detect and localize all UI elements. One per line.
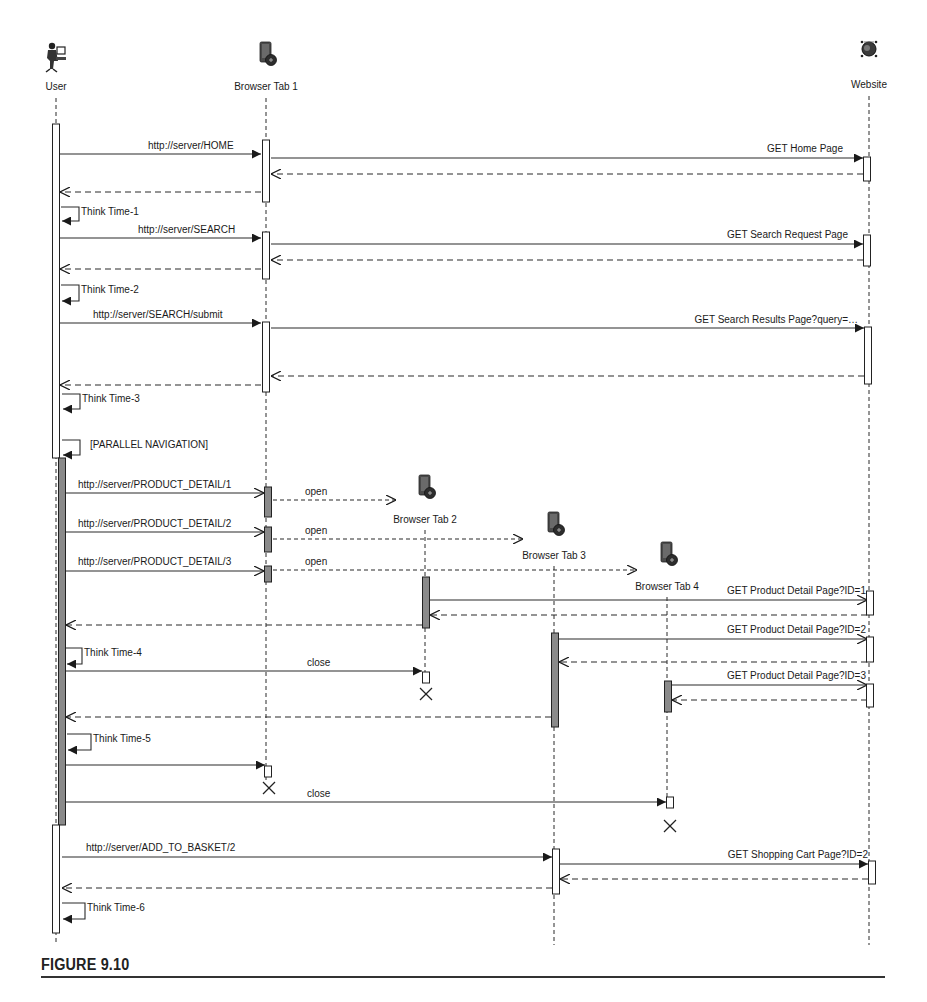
think-time-label: Think Time-4 xyxy=(84,647,142,658)
call-message: http://server/ADD_TO_BASKET/2 xyxy=(62,842,552,857)
activation-bar-website xyxy=(864,235,871,266)
activation-bar-tab1 xyxy=(265,527,272,552)
call-message: close xyxy=(66,657,422,671)
call-message: GET Product Detail Page?ID=2 xyxy=(559,624,867,639)
message-label: close xyxy=(307,788,331,799)
actor-label-tab1: Browser Tab 1 xyxy=(234,81,298,92)
activation-bar-website xyxy=(865,327,872,384)
activation-bar-tab3 xyxy=(552,633,559,727)
browser-tab-icon xyxy=(661,542,678,566)
destroy-x-icon xyxy=(263,782,275,794)
activation-bar-tab1 xyxy=(265,487,272,517)
actor-tab1: Browser Tab 1 xyxy=(234,42,298,92)
message-label: GET Home Page xyxy=(767,143,843,154)
actor-label-tab4: Browser Tab 4 xyxy=(635,581,699,592)
self-message: Think Time-2 xyxy=(61,284,139,301)
call-message: http://server/PRODUCT_DETAIL/3 xyxy=(66,556,264,571)
activation-bar-tab3 xyxy=(553,849,560,894)
activation-bar-website xyxy=(867,684,874,707)
message-label: http://server/PRODUCT_DETAIL/3 xyxy=(78,556,232,567)
user-at-computer-icon xyxy=(46,43,66,72)
think-time-label: Think Time-5 xyxy=(93,733,151,744)
self-message: [PARALLEL NAVIGATION] xyxy=(62,439,208,455)
destroy-x-icon xyxy=(664,820,676,832)
message-label: GET Shopping Cart Page?ID=2 xyxy=(728,849,869,860)
browser-tab-icon xyxy=(548,512,565,536)
call-message: GET Search Request Page xyxy=(271,229,863,244)
message-label: http://server/PRODUCT_DETAIL/1 xyxy=(78,479,232,490)
activation-bar-user xyxy=(53,825,60,933)
message-label: GET Search Request Page xyxy=(727,229,848,240)
activation-bar-tab1 xyxy=(263,232,270,279)
message-label: http://server/SEARCH/submit xyxy=(93,309,223,320)
message-label: GET Product Detail Page?ID=2 xyxy=(727,624,866,635)
call-message: close xyxy=(66,788,666,802)
message-label: open xyxy=(305,486,327,497)
activation-bar-tab1 xyxy=(263,140,270,202)
think-time-label: [PARALLEL NAVIGATION] xyxy=(90,439,208,450)
activation-bar-user xyxy=(59,458,66,825)
actor-tab4: Browser Tab 4 xyxy=(635,542,699,592)
create-message: open xyxy=(273,486,396,500)
actor-tab2: Browser Tab 2 xyxy=(393,475,457,525)
self-message: Think Time-3 xyxy=(62,393,140,409)
call-message: GET Shopping Cart Page?ID=2 xyxy=(560,849,868,864)
destroy-x-icon xyxy=(420,688,432,700)
activation-bar-tab2 xyxy=(423,672,430,683)
sequence-diagram: http://server/HOMEGET Home Pagehttp://se… xyxy=(0,0,927,1002)
message-label: open xyxy=(305,556,327,567)
think-time-label: Think Time-2 xyxy=(81,284,139,295)
activation-bar-tab1 xyxy=(265,566,272,582)
call-message: http://server/HOME xyxy=(60,140,261,154)
call-message: GET Product Detail Page?ID=3 xyxy=(672,670,867,685)
self-message: Think Time-4 xyxy=(66,647,142,664)
call-message: http://server/SEARCH/submit xyxy=(60,309,261,323)
call-message: http://server/PRODUCT_DETAIL/1 xyxy=(66,479,264,493)
actor-label-tab2: Browser Tab 2 xyxy=(393,514,457,525)
messages: http://server/HOMEGET Home Pagehttp://se… xyxy=(60,140,868,888)
message-label: http://server/HOME xyxy=(148,140,234,151)
call-message: http://server/PRODUCT_DETAIL/2 xyxy=(66,518,264,532)
message-label: http://server/ADD_TO_BASKET/2 xyxy=(86,842,236,853)
activation-bar-website xyxy=(864,157,871,181)
activation-bar-website xyxy=(867,591,874,615)
actor-website: Website xyxy=(851,41,887,90)
call-message: http://server/SEARCH xyxy=(60,224,261,238)
message-label: GET Search Results Page?query=… xyxy=(694,314,858,325)
actor-user: User xyxy=(45,43,67,92)
create-message: open xyxy=(273,525,523,539)
activation-bar-user xyxy=(53,124,60,458)
activation-bar-website xyxy=(867,637,874,662)
browser-tab-icon xyxy=(419,475,436,499)
message-label: close xyxy=(307,657,331,668)
message-label: open xyxy=(305,525,327,536)
think-time-label: Think Time-1 xyxy=(81,206,139,217)
activation-bar-website xyxy=(869,861,876,884)
self-message: Think Time-6 xyxy=(62,902,145,919)
activation-bar-tab4 xyxy=(665,681,672,712)
actor-tab3: Browser Tab 3 xyxy=(522,512,586,561)
activation-bar-tab1 xyxy=(265,766,272,777)
call-message: GET Search Results Page?query=… xyxy=(271,314,864,328)
think-time-label: Think Time-6 xyxy=(87,902,145,913)
think-time-label: Think Time-3 xyxy=(82,393,140,404)
destruction-markers xyxy=(263,688,676,832)
message-label: GET Product Detail Page?ID=3 xyxy=(727,670,866,681)
browser-tab-icon xyxy=(260,42,277,66)
caption-rule xyxy=(41,976,885,978)
self-message: Think Time-5 xyxy=(67,733,151,750)
message-label: http://server/PRODUCT_DETAIL/2 xyxy=(78,518,232,529)
activation-bar-tab1 xyxy=(263,322,270,392)
figure-caption: FIGURE 9.10 xyxy=(41,956,129,974)
self-message: Think Time-1 xyxy=(61,206,139,221)
message-label: GET Product Detail Page?ID=1 xyxy=(727,585,866,596)
website-server-icon xyxy=(861,41,878,58)
activation-bar-tab2 xyxy=(423,577,430,628)
activation-bar-tab4 xyxy=(667,797,674,808)
actor-label-tab3: Browser Tab 3 xyxy=(522,550,586,561)
call-message: GET Home Page xyxy=(271,143,863,158)
actor-label-user: User xyxy=(45,81,67,92)
actor-label-website: Website xyxy=(851,79,887,90)
message-label: http://server/SEARCH xyxy=(138,224,235,235)
